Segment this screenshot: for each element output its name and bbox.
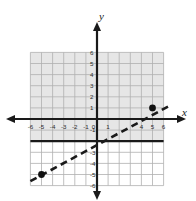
x-axis-label: x: [181, 106, 187, 118]
graph-svg: x y -6 -5 -4 -3 -2 -1 0 1 4 5 6 6 5 4 3 …: [0, 0, 196, 201]
y-tick--6: -6: [90, 182, 96, 189]
point-left: [38, 171, 45, 178]
y-tick--3: -3: [90, 149, 96, 156]
y-tick-5: 5: [90, 60, 94, 67]
y-tick--5: -5: [90, 171, 96, 178]
x-tick--5: -5: [39, 123, 45, 130]
y-tick-4: 4: [90, 71, 94, 78]
y-axis-bottom-arrow: [93, 191, 101, 200]
x-tick--2: -2: [72, 123, 78, 130]
x-axis-left-arrow: [6, 115, 15, 123]
coordinate-plane-figure: x y -6 -5 -4 -3 -2 -1 0 1 4 5 6 6 5 4 3 …: [0, 0, 196, 201]
y-tick--1: -1: [90, 126, 96, 133]
y-tick-6: 6: [90, 49, 94, 56]
x-tick-5: 5: [151, 123, 155, 130]
y-tick--4: -4: [90, 160, 96, 167]
x-tick-4: 4: [140, 123, 144, 130]
x-tick--6: -6: [28, 123, 34, 130]
x-tick--1: -1: [83, 123, 89, 130]
y-tick-3: 3: [90, 82, 94, 89]
y-tick-2: 2: [90, 93, 94, 100]
y-tick-1: 1: [90, 104, 94, 111]
x-tick-1: 1: [106, 123, 110, 130]
x-tick--4: -4: [50, 123, 56, 130]
x-tick-6: 6: [162, 123, 166, 130]
y-axis-label: y: [98, 10, 104, 22]
point-right: [149, 105, 156, 112]
y-axis-top-arrow: [93, 22, 101, 31]
x-tick--3: -3: [61, 123, 67, 130]
